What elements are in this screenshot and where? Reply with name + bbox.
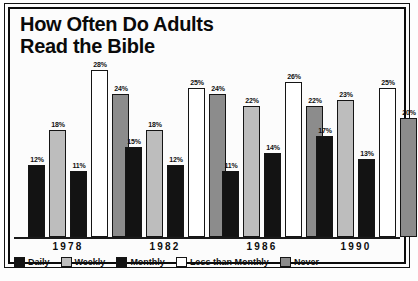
bar-weekly-1986[interactable] [243, 106, 260, 237]
bar-less-than-monthly-1978[interactable] [91, 70, 108, 237]
legend-swatch-icon [280, 257, 291, 267]
bar-value-label: 18% [48, 121, 68, 128]
legend-item-weekly[interactable]: Weekly [61, 257, 106, 267]
x-axis-label-1986: 1986 [214, 241, 310, 252]
bar-monthly-1982[interactable] [167, 165, 184, 237]
bar-value-label: 26% [284, 73, 304, 80]
legend-item-label: Less than Monthly [190, 257, 269, 267]
legend-item-label: Weekly [75, 257, 106, 267]
bar-daily-1978[interactable] [28, 165, 45, 237]
bar-monthly-1990[interactable] [358, 159, 375, 237]
bar-value-label: 25% [378, 79, 398, 86]
legend-swatch-icon [116, 257, 127, 267]
bar-slot: 12% [28, 58, 45, 237]
bar-less-than-monthly-1986[interactable] [285, 82, 302, 237]
chart-title-line-2: Read the Bible [20, 36, 340, 58]
bar-slot: 15% [125, 58, 142, 237]
bar-slot: 17% [316, 58, 333, 237]
bar-value-label: 12% [27, 156, 47, 163]
chart-title: How Often Do Adults Read the Bible [20, 14, 340, 57]
bar-group-1990: 17%23%13%25%20% [316, 58, 418, 237]
bar-value-label: 23% [336, 91, 356, 98]
chart-title-line-1: How Often Do Adults [20, 13, 214, 35]
bar-slot: 22% [243, 58, 260, 237]
bar-less-than-monthly-1982[interactable] [188, 88, 205, 237]
legend-item-never[interactable]: Never [280, 257, 319, 267]
bar-slot: 18% [146, 58, 163, 237]
bar-less-than-monthly-1990[interactable] [379, 88, 396, 237]
bar-slot: 11% [70, 58, 87, 237]
legend-item-label: Daily [28, 257, 50, 267]
bar-value-label: 12% [166, 156, 186, 163]
bar-group-1978: 12%18%11%28%24% [28, 58, 133, 237]
bar-value-label: 28% [90, 61, 110, 68]
plot-area: 12%18%11%28%24%15%18%12%25%24%11%22%14%2… [14, 58, 400, 239]
legend-item-label: Never [294, 257, 319, 267]
bar-monthly-1986[interactable] [264, 153, 281, 237]
legend-item-daily[interactable]: Daily [14, 257, 50, 267]
x-axis-label-1982: 1982 [117, 241, 213, 252]
bar-slot: 11% [222, 58, 239, 237]
bar-monthly-1978[interactable] [70, 171, 87, 237]
legend-swatch-icon [61, 257, 72, 267]
bar-value-label: 15% [124, 138, 144, 145]
bar-never-1990[interactable] [400, 118, 417, 237]
chart-figure: How Often Do Adults Read the Bible 12%18… [0, 0, 418, 281]
bar-slot: 14% [264, 58, 281, 237]
bar-value-label: 17% [315, 127, 335, 134]
bar-value-label: 14% [263, 144, 283, 151]
bar-slot: 25% [379, 58, 396, 237]
bar-daily-1986[interactable] [222, 171, 239, 237]
bar-slot: 20% [400, 58, 417, 237]
bar-weekly-1978[interactable] [49, 130, 66, 237]
bar-slot: 28% [91, 58, 108, 237]
legend-item-less-than-monthly[interactable]: Less than Monthly [176, 257, 269, 267]
bar-value-label: 22% [242, 97, 262, 104]
chart-legend: DailyWeeklyMonthlyLess than MonthlyNever [14, 255, 402, 268]
bar-value-label: 13% [357, 150, 377, 157]
x-axis-tick-labels: 1978198219861990 [14, 241, 400, 255]
bar-slot: 12% [167, 58, 184, 237]
bar-value-label: 25% [187, 79, 207, 86]
bar-slot: 25% [188, 58, 205, 237]
legend-item-monthly[interactable]: Monthly [116, 257, 165, 267]
bar-weekly-1982[interactable] [146, 130, 163, 237]
bar-value-label: 11% [221, 162, 241, 169]
legend-swatch-icon [176, 257, 187, 267]
x-axis-label-1990: 1990 [308, 241, 404, 252]
bar-weekly-1990[interactable] [337, 100, 354, 237]
bar-slot: 23% [337, 58, 354, 237]
bar-value-label: 11% [69, 162, 89, 169]
bar-slot: 26% [285, 58, 302, 237]
bar-group-1986: 11%22%14%26%22% [222, 58, 327, 237]
bar-group-1982: 15%18%12%25%24% [125, 58, 230, 237]
x-axis-baseline [14, 237, 400, 239]
x-axis-label-1978: 1978 [20, 241, 116, 252]
bar-slot: 13% [358, 58, 375, 237]
bar-value-label: 18% [145, 121, 165, 128]
bar-daily-1982[interactable] [125, 147, 142, 237]
legend-swatch-icon [14, 257, 25, 267]
bar-daily-1990[interactable] [316, 136, 333, 237]
legend-item-label: Monthly [130, 257, 165, 267]
bar-value-label: 20% [399, 109, 418, 116]
bar-slot: 18% [49, 58, 66, 237]
